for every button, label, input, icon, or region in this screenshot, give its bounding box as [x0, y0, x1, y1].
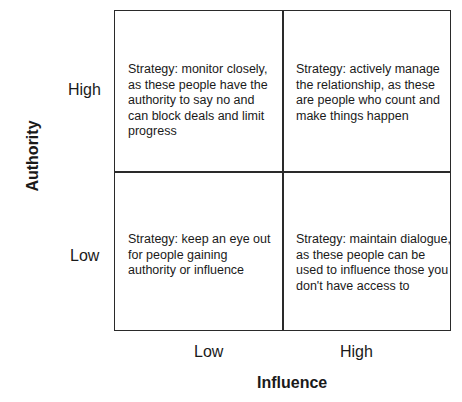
strategy-matrix: Strategy: monitor closely, as these peop…: [114, 10, 451, 331]
y-axis-tick-high: High: [68, 81, 101, 99]
y-axis-title: Authority: [24, 120, 42, 191]
x-axis-tick-high: High: [340, 343, 373, 361]
x-axis-title: Influence: [257, 374, 327, 392]
quadrant-high-authority-high-influence: Strategy: actively manage the relationsh…: [296, 62, 451, 124]
quadrant-low-authority-high-influence: Strategy: maintain dialogue, as these pe…: [296, 232, 451, 294]
x-axis-tick-low: Low: [194, 343, 223, 361]
quadrant-low-authority-low-influence: Strategy: keep an eye out for people gai…: [128, 232, 278, 279]
y-axis-tick-low: Low: [70, 247, 99, 265]
quadrant-high-authority-low-influence: Strategy: monitor closely, as these peop…: [128, 62, 278, 140]
horizontal-divider: [115, 171, 450, 173]
